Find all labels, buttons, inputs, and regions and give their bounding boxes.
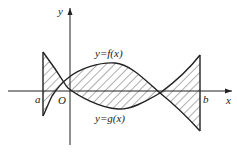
curve-g-label: y=g(x) bbox=[95, 113, 125, 124]
figure: y x O a b y=f(x) y=g(x) bbox=[0, 0, 237, 153]
y-axis-label: y bbox=[58, 6, 63, 17]
origin-label: O bbox=[58, 95, 66, 106]
bound-a-label: a bbox=[35, 94, 41, 105]
y-axis-arrow-icon bbox=[68, 8, 73, 15]
curve-f-label: y=f(x) bbox=[95, 48, 123, 59]
x-axis-label: x bbox=[226, 95, 231, 106]
x-axis-arrow-icon bbox=[225, 89, 232, 94]
plot-area bbox=[0, 0, 237, 153]
bound-b-label: b bbox=[203, 94, 209, 105]
